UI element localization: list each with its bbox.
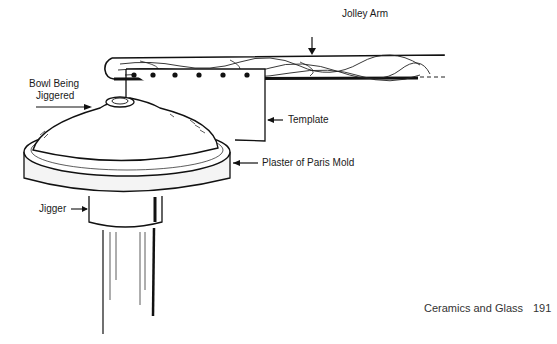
mold-label: Plaster of Paris Mold [262,157,354,169]
jigger [71,196,162,334]
template-label: Template [288,114,329,126]
bowl-label-line1: Bowl Being [29,78,79,90]
page-number: 191 [533,302,551,314]
footer-section-title: Ceramics and Glass [424,302,523,314]
jigger-label: Jigger [39,203,66,215]
jiggering-illustration [0,0,557,344]
bowl-label-line2: Jiggered [36,90,74,102]
jolley-arm-label: Jolley Arm [342,8,388,20]
